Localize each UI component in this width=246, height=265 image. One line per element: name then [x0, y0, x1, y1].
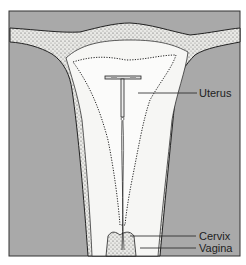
label-cervix: Cervix: [199, 231, 230, 242]
uterus-iud-illustration: [0, 0, 246, 265]
label-uterus: Uterus: [199, 88, 231, 99]
label-vagina: Vagina: [199, 243, 232, 254]
